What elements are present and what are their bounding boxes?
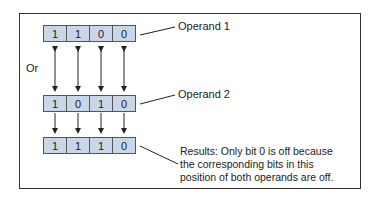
bit-cell: 0 <box>90 26 113 41</box>
bit-cell: 1 <box>44 138 67 153</box>
operand1-label: Operand 1 <box>178 20 230 32</box>
bit-cell: 1 <box>44 26 67 41</box>
bit-cell: 0 <box>113 26 135 41</box>
operand2-label: Operand 2 <box>178 88 230 100</box>
bit-cell: 1 <box>90 138 113 153</box>
result-register: 1 1 1 0 <box>43 137 136 154</box>
result-note: Results: Only bit 0 is off because the c… <box>180 145 350 184</box>
operand2-register: 1 0 1 0 <box>43 95 136 112</box>
bit-cell: 1 <box>90 96 113 111</box>
bit-cell: 1 <box>67 26 90 41</box>
operator-label: Or <box>26 62 38 74</box>
bit-cell: 1 <box>67 138 90 153</box>
operand1-register: 1 1 0 0 <box>43 25 136 42</box>
bit-cell: 0 <box>113 96 135 111</box>
bit-cell: 1 <box>44 96 67 111</box>
bit-cell: 0 <box>67 96 90 111</box>
bit-cell: 0 <box>113 138 135 153</box>
